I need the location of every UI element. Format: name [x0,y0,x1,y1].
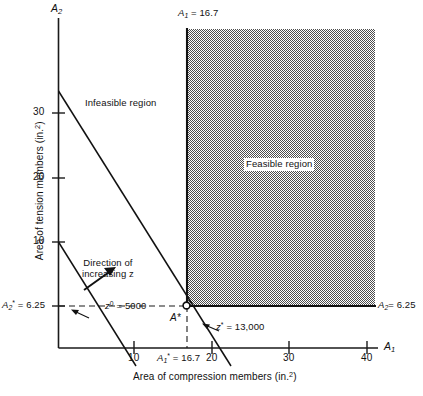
objective-label-z-optimal: z* = 13,000 [216,321,264,333]
x-axis-variable-label: A1 [384,340,395,355]
y-axis-caption: Area of tension members (in.2) [34,96,46,286]
x-tick-label-30: 30 [283,352,294,364]
optimum-label-a2-star: A2* = 6.25 [2,299,45,312]
infeasible-region-label: Infeasible region [85,98,156,109]
optimum-point-marker [183,302,190,309]
x-tick-label-20: 20 [206,352,217,364]
constraint-label-a2: A2= 6.25 [378,300,416,312]
y-axis-variable-label: A2 [51,2,62,17]
x-tick-label-40: 40 [361,352,372,364]
optimum-label-a1-star: A1* = 16.7 [157,352,200,365]
figure-container: A2 A1 30 20 10 10 20 30 40 Area of tensi… [0,0,423,396]
optimum-point-label: A* [170,312,181,324]
leader-z-initial-icon [71,310,89,319]
x-axis-caption: Area of compression members (in.2) [133,371,297,383]
direction-of-increase-label: Direction of increasing z [82,258,134,280]
feasible-region-label: Feasible region [244,158,314,171]
objective-label-z-initial: z0 = 5000 [105,300,146,312]
x-tick-label-10: 10 [128,352,139,364]
constraint-label-a1: A1 = 16.7 [178,8,218,20]
plot-svg [0,0,423,396]
